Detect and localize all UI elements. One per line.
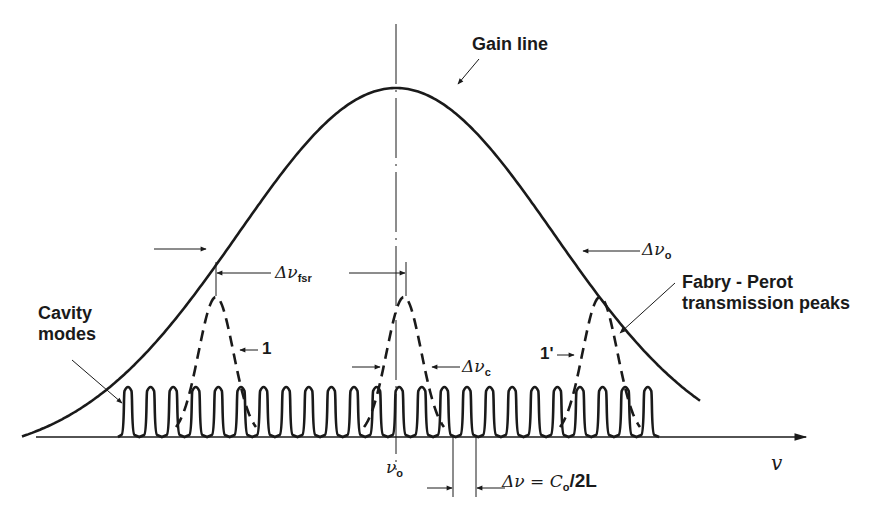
cavity-modes-label-line2: modes	[38, 324, 96, 345]
fabry-perot-label: Fabry - Perot transmission peaks	[682, 272, 850, 314]
laser-mode-diagram: Gain line Cavity modes Fabry - Perot tra…	[0, 0, 872, 516]
cavity-modes-label: Cavity modes	[38, 303, 96, 345]
mode-spacing-tail: /2L	[569, 470, 596, 491]
fp-label-pointer	[620, 283, 675, 333]
gain-width-label: Δνo	[642, 239, 671, 261]
mode-spacing-symbol: Δν = C	[502, 471, 563, 491]
fabry-perot-label-line1: Fabry - Perot	[682, 272, 850, 293]
diagram-canvas	[0, 0, 872, 516]
gain-width-subscript: o	[665, 249, 672, 261]
peak-1-label: 1	[262, 339, 271, 359]
center-frequency-label: νo	[386, 457, 403, 479]
fp-width-label: Δνc	[462, 356, 491, 378]
center-frequency-subscript: o	[396, 467, 403, 479]
fsr-label-symbol: Δν	[275, 262, 298, 282]
fsr-label-subscript: fsr	[298, 272, 312, 284]
cavity-modes-comb	[118, 387, 659, 437]
cavity-modes-label-line1: Cavity	[38, 303, 96, 324]
mode-spacing-label: Δν = Co/2L	[502, 470, 597, 493]
fsr-label: Δνfsr	[275, 262, 312, 284]
center-frequency-symbol: ν	[386, 457, 396, 477]
fabry-perot-label-line2: transmission peaks	[682, 293, 850, 314]
peak-1prime-label: 1'	[540, 344, 554, 364]
fabry-perot-peak-1'	[560, 297, 640, 427]
fp-width-subscript: c	[485, 366, 491, 378]
gain-curve	[22, 88, 700, 437]
gain-line-label: Gain line	[472, 34, 548, 55]
fabry-perot-peaks	[176, 297, 640, 427]
gain-line-pointer	[458, 59, 479, 84]
frequency-axis-label: v	[771, 451, 782, 475]
gain-width-symbol: Δν	[642, 239, 665, 259]
fp-width-symbol: Δν	[462, 356, 485, 376]
